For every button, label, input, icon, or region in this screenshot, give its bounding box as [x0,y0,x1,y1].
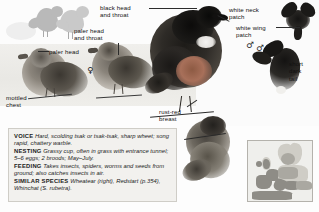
callout-paler-head: paler head [49,48,89,55]
info-heading-voice: VOICE [14,133,33,139]
leader-line-white-wing [276,27,300,28]
callout-paler-head-and-throat: paler head and throat [74,27,126,42]
field-guide-page: black head and throat paler head and thr… [0,0,319,212]
symbol-male-flight-upper: ♂ [246,41,254,50]
info-heading-nesting: NESTING [14,148,42,154]
info-heading-feeding: FEEDING [14,163,42,169]
callout-white-neck-patch: white neck patch [229,6,271,21]
info-entry-feeding: FEEDING Takes insects, spiders, worms an… [14,163,171,178]
distribution-map-europe [247,140,313,202]
callout-black-head-and-throat: black head and throat [100,4,148,19]
symbol-female: ♀ [87,66,93,75]
species-info-panel: VOICE Hard, scolding tsak or tsak-tsak, … [8,128,177,202]
leader-line-paler-head [38,51,49,52]
callout-short-dark-tail: short dark tail [289,60,315,82]
info-entry-nesting: NESTING Grassy cup, often in grass with … [14,148,171,163]
leader-line-rust-red-breast [187,100,198,108]
symbol-male-flight-lower: ♂ [256,44,264,53]
info-heading-similar-species: SIMILAR SPECIES [14,178,69,184]
info-entry-voice: VOICE Hard, scolding tsak or tsak-tsak, … [14,133,171,148]
callout-white-wing-patch: white wing patch [236,24,278,39]
leader-line-paler-head-throat [118,43,119,55]
callout-mottled-chest: mottled chest [6,94,42,109]
info-entry-similar-species: SIMILAR SPECIES Wheatear (right), Redsta… [14,178,171,193]
info-text-voice: Hard, scolding tsak or tsak-tsak, sharp … [14,133,169,146]
leader-line-black-head [149,8,197,9]
callout-rust-red-breast: rust-red breast [159,108,197,123]
